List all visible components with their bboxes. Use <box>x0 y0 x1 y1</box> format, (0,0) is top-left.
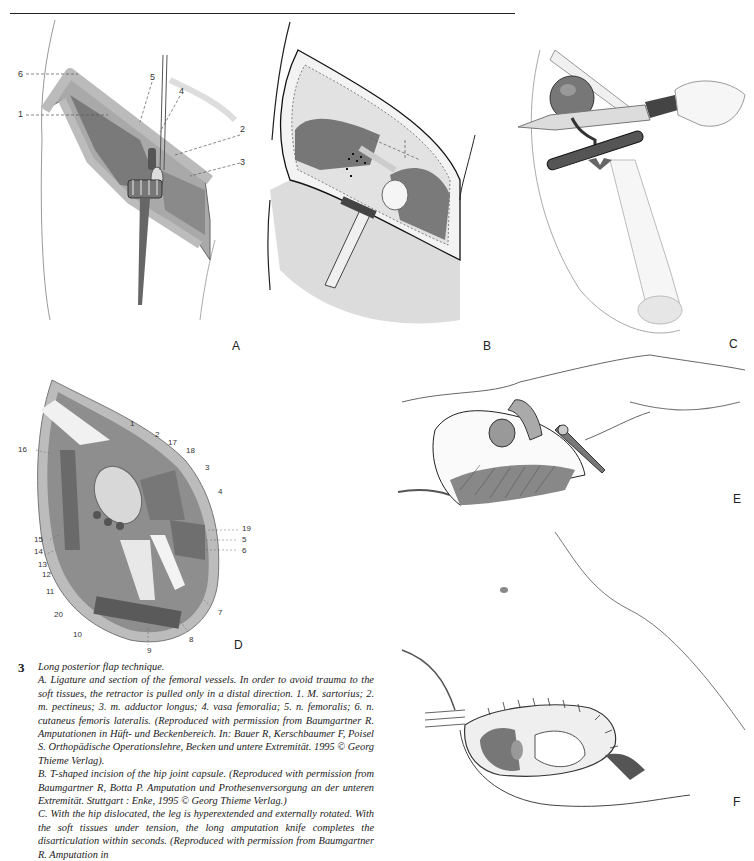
panel-label-f: F <box>733 795 740 809</box>
callout-d-18: 18 <box>186 446 195 455</box>
callout-d-9: 9 <box>147 646 151 655</box>
callout-d-4: 4 <box>218 487 222 496</box>
callout-a-2: 2 <box>240 124 245 134</box>
callout-d-7: 7 <box>218 608 222 617</box>
panel-c-illustration: C <box>500 20 754 340</box>
callout-d-5: 5 <box>242 535 246 544</box>
panel-a-illustration: 6 1 5 4 2 3 A <box>0 20 260 340</box>
callout-d-19: 19 <box>242 524 251 533</box>
callout-d-20: 20 <box>54 610 63 619</box>
callout-d-14: 14 <box>34 547 43 556</box>
callout-a-3: 3 <box>240 157 245 167</box>
callout-d-15: 15 <box>34 535 43 544</box>
callout-d-12: 12 <box>42 570 51 579</box>
panel-label-d: D <box>234 638 243 652</box>
callout-d-2: 2 <box>155 430 159 439</box>
caption-paragraph-a: A. Ligature and section of the femoral v… <box>38 673 374 767</box>
wound-closure-drawing <box>390 530 754 818</box>
caption-paragraph-b: B. T-shaped incision of the hip joint ca… <box>38 767 374 807</box>
panel-b-illustration: B <box>250 20 500 340</box>
panel-label-e: E <box>733 492 741 506</box>
callout-a-1: 1 <box>18 109 23 119</box>
callout-d-6: 6 <box>242 546 246 555</box>
callout-d-16: 16 <box>18 445 27 454</box>
callout-d-3: 3 <box>205 463 209 472</box>
callout-d-17: 17 <box>168 438 177 447</box>
header-rule <box>10 13 515 14</box>
panel-f-illustration: F <box>390 530 754 818</box>
caption-paragraph-c: C. With the hip dislocated, the leg is h… <box>38 807 374 861</box>
posterior-flap-incision-drawing <box>390 340 754 530</box>
hip-disarticulation-knife-drawing <box>500 20 754 340</box>
callout-d-8: 8 <box>189 635 193 644</box>
callout-a-6: 6 <box>18 69 23 79</box>
callout-d-11: 11 <box>46 587 54 596</box>
panel-e-illustration: E <box>390 340 754 530</box>
callout-a-5: 5 <box>150 72 155 82</box>
callout-a-4: 4 <box>179 86 184 96</box>
caption-title: Long posterior flap technique. <box>38 660 374 673</box>
panel-d-illustration: 1 2 17 18 3 4 19 5 6 16 15 14 13 12 11 2… <box>0 350 260 660</box>
figure-number: 3 <box>18 660 25 676</box>
callout-d-10: 10 <box>73 630 82 639</box>
callout-d-1: 1 <box>130 419 134 428</box>
femoral-vessel-ligation-drawing <box>0 20 260 340</box>
hip-capsule-incision-drawing <box>250 20 500 340</box>
callout-d-13: 13 <box>38 560 47 569</box>
caption-body: Long posterior flap technique. A. Ligatu… <box>38 660 374 861</box>
